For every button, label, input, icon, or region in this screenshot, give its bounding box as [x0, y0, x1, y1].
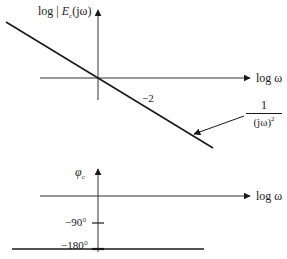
label-suffix: (jω): [72, 4, 91, 18]
fraction-numerator: 1: [246, 99, 282, 114]
label-pointer-arrow: [194, 116, 244, 134]
bode-diagram: [0, 0, 287, 259]
slope-label: −2: [142, 93, 154, 104]
magnitude-y-axis-label: log | Ec(jω): [38, 5, 91, 20]
magnitude-asymptote-line: [6, 22, 213, 148]
denominator-exponent: 2: [271, 115, 275, 123]
phase-sub: c: [82, 173, 85, 181]
phase-x-axis-label: log ω: [256, 190, 282, 202]
phase-plot: [12, 169, 250, 252]
magnitude-x-axis-label: log ω: [256, 72, 282, 84]
tick-minus-180-label: −180°: [61, 240, 88, 251]
transfer-function-label: 1 (jω)2: [246, 99, 282, 128]
label-prefix: log |: [38, 4, 62, 18]
magnitude-plot: [6, 10, 250, 148]
phase-var: φ: [75, 165, 82, 179]
fraction-denominator: (jω)2: [246, 114, 282, 128]
label-var: E: [62, 4, 69, 18]
phase-y-axis-label: φc: [75, 166, 85, 181]
denominator-base: (jω): [253, 116, 271, 128]
tick-minus-90-label: −90°: [65, 217, 87, 228]
